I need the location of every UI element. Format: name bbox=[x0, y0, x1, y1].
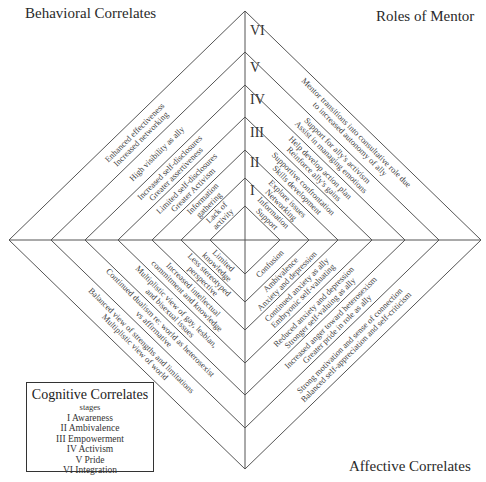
legend-subtitle: stages bbox=[27, 403, 153, 413]
cognitive-correlates-legend: Cognitive Correlates stages I Awareness … bbox=[26, 382, 154, 472]
stage-numeral: VI bbox=[250, 23, 265, 39]
legend-stage-item: II Ambivalence bbox=[27, 423, 153, 434]
stage-numeral: V bbox=[250, 60, 260, 76]
legend-stage-item: VI Integration bbox=[27, 465, 153, 476]
stage-numeral: III bbox=[250, 125, 264, 141]
legend-title: Cognitive Correlates bbox=[27, 387, 153, 403]
stage-numeral: I bbox=[250, 183, 255, 199]
legend-stage-item: I Awareness bbox=[27, 413, 153, 424]
legend-stage-list: I Awareness II Ambivalence III Empowerme… bbox=[27, 413, 153, 476]
legend-stage-item: V Pride bbox=[27, 455, 153, 466]
stage-numeral: IV bbox=[250, 92, 265, 108]
legend-stage-item: III Empowerment bbox=[27, 434, 153, 445]
legend-stage-item: IV Activism bbox=[27, 444, 153, 455]
stage-numeral: II bbox=[250, 155, 259, 171]
